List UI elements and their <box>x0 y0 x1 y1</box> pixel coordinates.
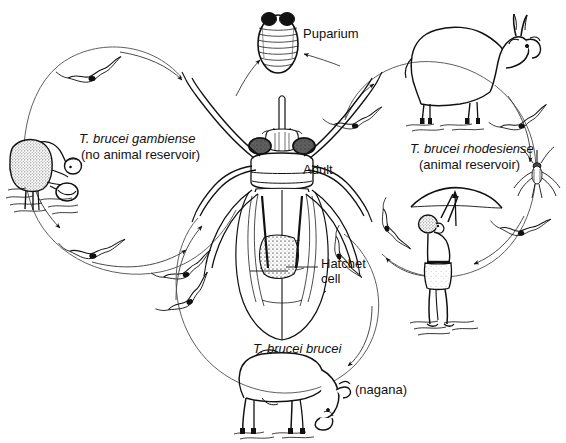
life-cycle-illustration <box>0 0 566 443</box>
trypanosome <box>375 195 410 255</box>
puparium-label: Puparium <box>303 26 359 41</box>
hatchet-cell-label: Hatchet cell <box>321 256 366 287</box>
gambiense-cycle-note: (no animal reservoir) <box>81 147 200 162</box>
rhodesiense-cycle-title: T. brucei rhodesiense <box>410 141 534 156</box>
adult-label: Adult <box>303 162 333 177</box>
brucei-cycle-title: T. brucei brucei <box>253 341 341 356</box>
figure-canvas: Puparium Adult Hatchet cell T. brucei ga… <box>0 0 566 443</box>
trypanosome <box>58 235 126 261</box>
human-bending-over-water <box>6 140 82 214</box>
tsetse-puparium <box>258 13 298 74</box>
tsetse-fly-adult <box>182 72 382 340</box>
trypanosome <box>322 107 383 131</box>
nagana-label: (nagana) <box>355 382 407 397</box>
gambiense-cycle-title: T. brucei gambiense <box>79 131 196 146</box>
trypanosome <box>489 213 551 239</box>
rhodesiense-cycle-note: (animal reservoir) <box>419 157 520 172</box>
human-with-bow-and-arrow <box>410 188 502 335</box>
cattle-zebu-grazing <box>234 350 351 439</box>
trypanosome <box>152 272 217 320</box>
trypanosome <box>487 104 549 134</box>
